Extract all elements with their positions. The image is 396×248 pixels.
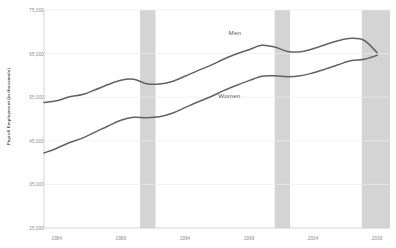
series-label-women: Women bbox=[218, 92, 240, 99]
data-series-lines bbox=[44, 38, 377, 153]
gridlines bbox=[44, 10, 390, 184]
plot-area bbox=[0, 0, 396, 248]
recession-shaded-bands bbox=[140, 10, 390, 228]
recession-2001 bbox=[275, 10, 290, 228]
series-line-men bbox=[44, 38, 377, 102]
plot-frame bbox=[44, 10, 390, 228]
series-label-men: Men bbox=[229, 29, 242, 36]
recession-1990 bbox=[140, 10, 155, 228]
payroll-employment-chart: Payroll Employment (in thousands) 75,000… bbox=[0, 0, 396, 248]
series-line-women bbox=[44, 55, 377, 153]
recession-2007 bbox=[362, 10, 390, 228]
